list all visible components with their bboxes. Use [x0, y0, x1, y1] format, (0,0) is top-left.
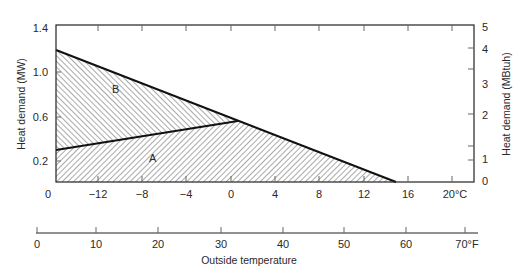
y-right-tick-1: 1 — [482, 153, 488, 165]
x-c-label: 12 — [358, 188, 370, 200]
y-right-label: Heat demand (MBtuh) — [500, 52, 512, 155]
x-c-label: −12 — [89, 188, 108, 200]
y-left-tick-1.4: 1.4 — [33, 22, 48, 34]
x-f-label: 50 — [338, 238, 350, 250]
x-f-label: 20 — [152, 238, 164, 250]
y-right-tick-0: 0 — [482, 175, 488, 187]
region-a-label: A — [149, 152, 157, 164]
x-c-label: −4 — [180, 188, 193, 200]
x-f-label: 40 — [277, 238, 289, 250]
celsius-labels: 0 −12 −8 −4 0 4 8 12 16 20°C — [45, 188, 467, 200]
y-left-tick-0.6: 0.6 — [33, 111, 48, 123]
x-c-label-origin: 0 — [45, 188, 51, 200]
fahrenheit-labels: 0 10 20 30 40 50 60 70°F — [34, 238, 479, 250]
x-c-label: 0 — [228, 188, 234, 200]
x-c-label: −8 — [136, 188, 149, 200]
region-b-label: B — [112, 83, 119, 95]
x-c-label: 8 — [316, 188, 322, 200]
y-left-label: Heat demand (MW) — [15, 58, 27, 150]
y-left-tick-1.0: 1.0 — [33, 66, 48, 78]
heat-demand-chart: 1.4 1.0 0.6 0.2 Heat demand (MW) 5 4 3 2… — [0, 0, 522, 278]
x-axis-label: Outside temperature — [201, 254, 297, 266]
x-c-label: 4 — [272, 188, 278, 200]
y-right-tick-4: 4 — [482, 43, 488, 55]
y-right-tick-3: 3 — [482, 78, 488, 90]
x-c-label: 16 — [402, 188, 414, 200]
y-right-tick-5: 5 — [482, 21, 488, 33]
x-f-label: 0 — [34, 238, 40, 250]
y-right-tick-2: 2 — [482, 109, 488, 121]
y-left-tick-0.2: 0.2 — [33, 155, 48, 167]
x-f-label: 70°F — [455, 238, 479, 250]
x-f-label: 30 — [215, 238, 227, 250]
x-f-label: 10 — [90, 238, 102, 250]
x-c-label: 20°C — [443, 188, 468, 200]
fahrenheit-ticks — [37, 227, 465, 233]
x-f-label: 60 — [400, 238, 412, 250]
